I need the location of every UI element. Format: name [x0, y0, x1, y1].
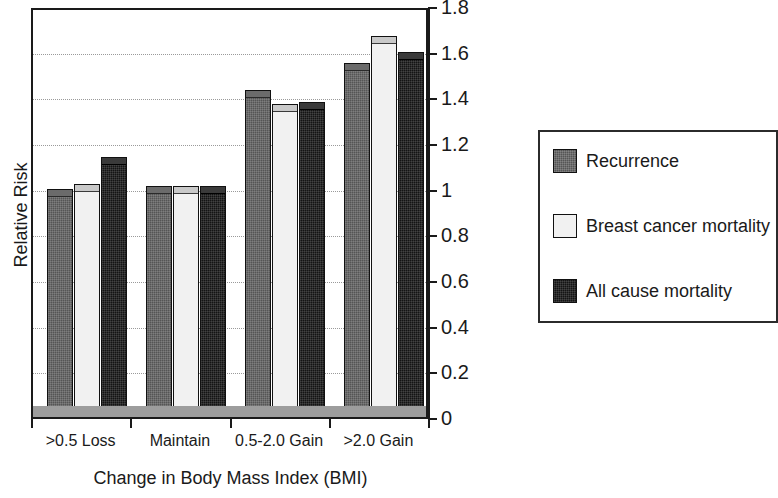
bar	[101, 157, 127, 417]
bar	[299, 102, 325, 417]
bar	[272, 104, 298, 417]
y-axis-tick	[428, 372, 437, 374]
y-axis-title: Relative Risk	[11, 125, 31, 305]
legend-item[interactable]: Breast cancer mortality	[553, 213, 770, 239]
bar	[245, 90, 271, 417]
x-axis-tick	[31, 419, 33, 428]
legend-swatch-icon	[553, 149, 577, 173]
legend-swatch-icon	[553, 214, 577, 238]
x-axis-title: Change in Body Mass Index (BMI)	[31, 468, 430, 488]
bar	[200, 186, 226, 417]
y-axis-tick-label: 1.6	[441, 43, 469, 63]
legend-label: All cause mortality	[586, 281, 732, 301]
bar-top-cap	[246, 91, 270, 98]
legend: RecurrenceBreast cancer mortalityAll cau…	[538, 130, 778, 323]
legend-label: Recurrence	[586, 151, 679, 171]
bar-top-cap	[48, 190, 72, 197]
y-axis-tick	[428, 235, 437, 237]
y-axis-tick	[428, 144, 437, 146]
y-axis-tick-label: 1.4	[441, 88, 469, 108]
x-axis-category-label: >0.5 Loss	[31, 432, 130, 450]
bar-top-cap	[147, 187, 171, 194]
bar	[173, 186, 199, 417]
x-axis-category-label: 0.5-2.0 Gain	[230, 432, 329, 450]
bar-top-cap	[273, 105, 297, 112]
y-axis-tick-label: 0	[441, 408, 452, 428]
x-axis-category-label: Maintain	[130, 432, 229, 450]
bar-top-cap	[201, 187, 225, 194]
legend-swatch-icon	[553, 279, 577, 303]
bar-top-cap	[300, 103, 324, 110]
bar	[146, 186, 172, 417]
bar-top-cap	[102, 158, 126, 165]
y-axis-tick	[428, 53, 437, 55]
bar-top-cap	[75, 185, 99, 192]
y-axis-tick-label: 1.8	[441, 0, 469, 17]
bar-top-cap	[372, 37, 396, 44]
y-axis-tick	[428, 327, 437, 329]
bar	[371, 36, 397, 417]
y-axis-tick-label: 1.2	[441, 134, 469, 154]
y-axis-tick-label: 0.4	[441, 317, 469, 337]
bar-top-cap	[399, 53, 423, 60]
y-axis-tick	[428, 190, 437, 192]
y-axis-tick-label: 0.6	[441, 271, 469, 291]
legend-label: Breast cancer mortality	[586, 216, 770, 236]
x-axis-category-label: >2.0 Gain	[329, 432, 428, 450]
x-axis-tick	[428, 419, 430, 428]
y-axis-tick-label: 1	[441, 180, 452, 200]
x-axis-tick	[329, 419, 331, 428]
legend-item[interactable]: All cause mortality	[553, 278, 732, 304]
y-axis-tick-label: 0.8	[441, 225, 469, 245]
x-axis-tick	[130, 419, 132, 428]
bar	[398, 52, 424, 417]
y-axis-tick-label: 0.2	[441, 362, 469, 382]
gridline	[33, 54, 426, 55]
y-axis-tick	[428, 98, 437, 100]
y-axis-line	[428, 8, 430, 419]
x-axis-tick	[230, 419, 232, 428]
y-axis-tick	[428, 281, 437, 283]
legend-item[interactable]: Recurrence	[553, 148, 679, 174]
bar-top-cap	[345, 64, 369, 71]
bar	[74, 184, 100, 417]
plot-floor-band	[33, 406, 426, 417]
bar-top-cap	[174, 187, 198, 194]
bar	[344, 63, 370, 417]
bar	[47, 189, 73, 417]
plot-area	[31, 8, 428, 419]
y-axis-tick	[428, 7, 437, 9]
